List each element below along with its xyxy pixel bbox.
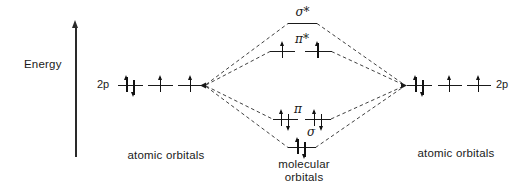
- right-2p-label: 2p: [496, 78, 508, 90]
- sigma-label: σ: [300, 126, 322, 138]
- electron-down-icon: [285, 113, 292, 130]
- right-2p-orbital-1: [407, 85, 432, 86]
- right-2p-orbital-3: [467, 85, 492, 86]
- left-2p-orbital-1: [118, 85, 143, 86]
- sigma-orbital: [288, 147, 316, 148]
- electron-up-icon: [315, 42, 322, 59]
- molecular-orbitals-caption-line2: orbitals: [258, 171, 350, 183]
- electron-up-icon: [475, 76, 482, 93]
- energy-axis-line: [75, 27, 76, 157]
- electron-up-icon: [413, 76, 420, 93]
- electron-up-icon: [446, 76, 453, 93]
- sigma-star-orbital: [288, 23, 317, 24]
- mo-energy-diagram: Energy 2p 2p σ* π* π σ atomic orbitals a…: [0, 0, 521, 193]
- electron-up-icon: [187, 76, 194, 93]
- electron-up-icon: [124, 76, 131, 93]
- right-atomic-orbitals-caption: atomic orbitals: [409, 147, 503, 159]
- electron-up-icon: [157, 76, 164, 93]
- molecular-orbitals-caption-line1: molecular: [258, 158, 350, 170]
- pi-orbital-left: [273, 119, 299, 120]
- pi-star-orbital-left: [270, 51, 295, 52]
- right-2p-orbital-2: [438, 85, 463, 86]
- electron-up-icon: [279, 42, 286, 59]
- electron-down-icon: [420, 79, 427, 96]
- left-2p-orbital-3: [178, 85, 203, 86]
- electron-up-icon: [278, 110, 285, 127]
- left-2p-label: 2p: [97, 78, 109, 90]
- energy-axis-label: Energy: [24, 58, 62, 70]
- electron-down-icon: [302, 141, 309, 158]
- pi-orbital-right: [305, 119, 331, 120]
- energy-axis-arrowhead-icon: [72, 20, 78, 28]
- pi-star-orbital-right: [305, 51, 332, 52]
- left-atomic-orbitals-caption: atomic orbitals: [119, 149, 213, 161]
- sigma-star-label: σ*: [288, 6, 317, 18]
- left-2p-orbital-2: [148, 85, 173, 86]
- pi-star-label: π*: [289, 33, 315, 45]
- electron-up-icon: [295, 138, 302, 155]
- electron-down-icon: [131, 79, 138, 96]
